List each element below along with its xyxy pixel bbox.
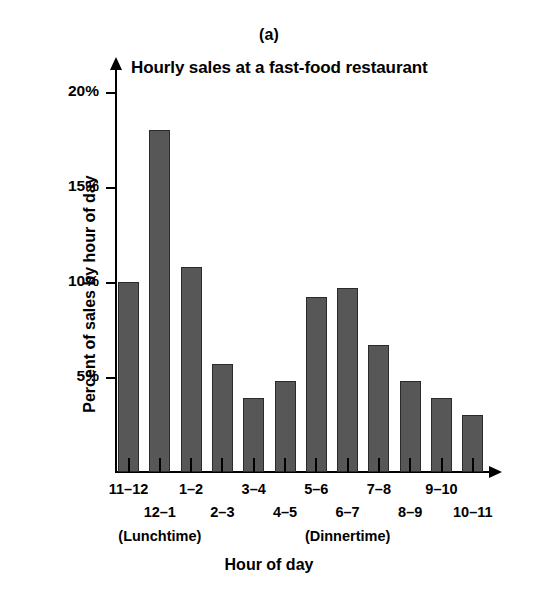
meal-time-annotation: (Dinnertime) <box>305 528 390 544</box>
x-tick-label: 1–2 <box>179 481 203 497</box>
x-tick-label: 3–4 <box>242 481 266 497</box>
bar <box>118 282 139 472</box>
y-tick: 10% <box>106 282 117 284</box>
meal-time-annotation: (Lunchtime) <box>118 528 201 544</box>
x-tick <box>159 458 161 472</box>
x-tick <box>284 458 286 472</box>
x-tick-label: 5–6 <box>304 481 328 497</box>
x-tick <box>378 458 380 472</box>
x-tick-label: 2–3 <box>210 504 234 520</box>
x-tick-label: 11–12 <box>109 481 149 497</box>
x-tick <box>409 458 411 472</box>
x-tick-label: 12–1 <box>144 504 176 520</box>
x-tick-label: 8–9 <box>398 504 422 520</box>
bar <box>212 364 233 472</box>
bar <box>368 345 389 472</box>
x-tick <box>221 458 223 472</box>
y-axis-arrow-icon <box>110 57 122 70</box>
plot-area: 5%10%15%20% 11–1212–11–22–33–44–55–66–77… <box>0 0 538 598</box>
y-axis-line <box>115 68 117 473</box>
y-tick-label: 15% <box>68 177 99 195</box>
bar <box>181 267 202 472</box>
figure-panel: (a) Hourly sales at a fast-food restaura… <box>0 0 538 598</box>
y-tick: 5% <box>106 377 117 379</box>
y-tick: 20% <box>106 92 117 94</box>
y-tick-label: 10% <box>68 272 99 290</box>
x-tick <box>347 458 349 472</box>
x-axis-arrow-icon <box>489 466 502 478</box>
x-tick-label: 6–7 <box>335 504 359 520</box>
x-axis-title: Hour of day <box>0 556 538 574</box>
bar <box>149 130 170 472</box>
y-tick-label: 5% <box>77 367 99 385</box>
bar <box>337 288 358 472</box>
x-tick <box>441 458 443 472</box>
x-tick-label: 4–5 <box>273 504 297 520</box>
x-tick <box>253 458 255 472</box>
x-tick <box>472 458 474 472</box>
y-tick: 15% <box>106 187 117 189</box>
x-tick-label: 9–10 <box>425 481 457 497</box>
x-tick <box>315 458 317 472</box>
x-tick <box>190 458 192 472</box>
bar <box>306 297 327 472</box>
y-tick-label: 20% <box>68 82 99 100</box>
x-tick-label: 7–8 <box>367 481 391 497</box>
x-tick-label: 10–11 <box>453 504 493 520</box>
x-tick <box>128 458 130 472</box>
